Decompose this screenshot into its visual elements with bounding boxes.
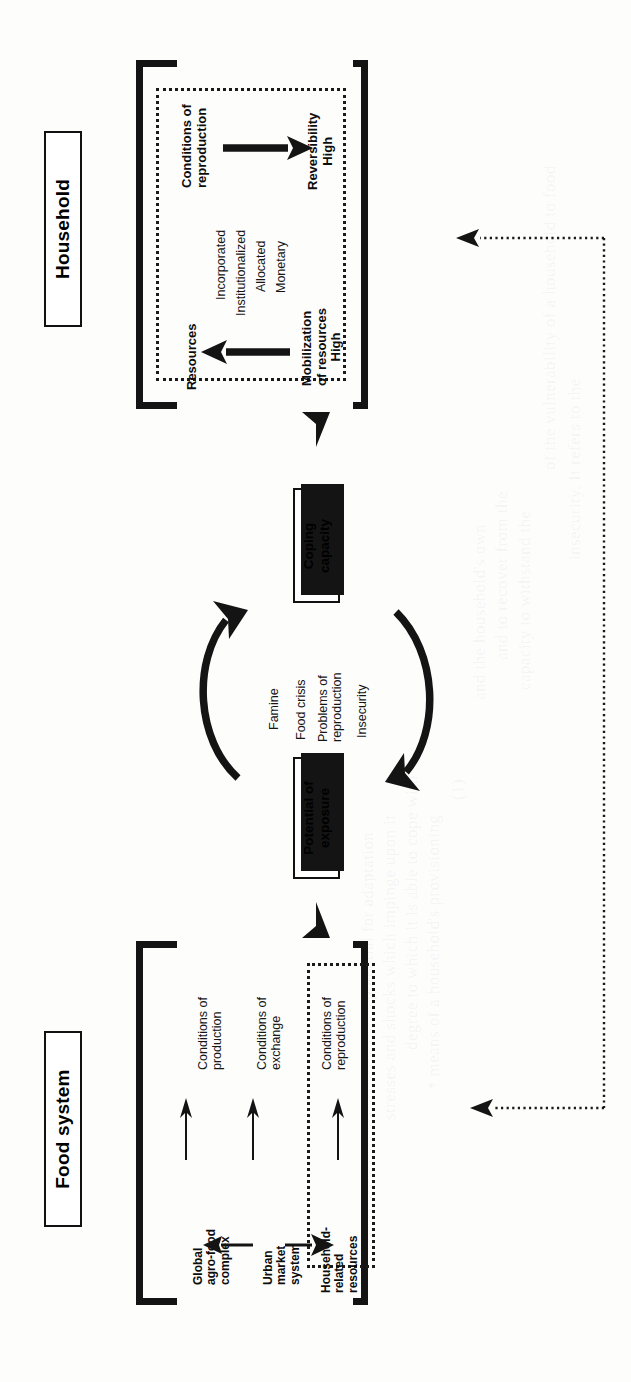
arrow-household-to-coping-capacity	[302, 412, 330, 447]
dotted-arrowhead-household	[456, 229, 479, 247]
food-system-title-label: Food system	[52, 1069, 74, 1188]
crisis-label-insecurity: Insecurity	[355, 685, 369, 739]
food-system-condition-exchange: Conditions of exchange	[255, 997, 283, 1070]
curved-arrow-coping-to-exposure	[385, 612, 430, 791]
bracket-arm-bottom	[136, 402, 177, 409]
ghost-text: and the household's own	[470, 524, 490, 700]
bracket-spine-close	[361, 60, 368, 409]
crisis-label-problems-of-reproduction: Problems of reproduction	[316, 673, 344, 743]
bracket-arm-top-close	[353, 941, 368, 948]
household-bracket-close	[353, 60, 368, 409]
potential-of-exposure-label: Potential of exposure	[301, 781, 333, 855]
ghost-text: and to recover from the	[492, 491, 512, 660]
household-resource-type: Institutionalized	[234, 230, 248, 316]
household-resources-label: Resources	[185, 324, 200, 390]
crisis-label-famine: Famine	[267, 688, 281, 730]
food-system-actor-urban-market-system: Urban market system	[262, 1244, 302, 1285]
household-title-plaque: Household	[44, 131, 82, 327]
bracket-arm-bottom	[136, 1298, 177, 1305]
household-reversibility-label: Reversibility High	[306, 113, 335, 190]
ghost-text: of the vulnerability of a household to f…	[540, 165, 560, 470]
potential-of-exposure-box[interactable]: Potential of exposure	[293, 757, 340, 879]
food-system-title-plaque: Food system	[44, 1031, 82, 1227]
arrow-food-system-to-potential-of-exposure	[302, 902, 330, 938]
bracket-arm-bottom-close	[353, 1298, 368, 1305]
dotted-feedback-loop	[456, 229, 604, 1117]
food-system-condition-reproduction: Conditions of reproduction	[320, 997, 348, 1070]
food-system-condition-production: Conditions of production	[196, 997, 224, 1070]
household-conditions-of-reproduction-label: Conditions of reproduction	[180, 104, 209, 188]
ghost-text: * means of a household's provisioning	[424, 815, 444, 1090]
ghost-text: insecurity. It refers to the	[565, 379, 585, 560]
ghost-text: degree to which it is able to cope with	[402, 776, 422, 1050]
ghost-text: stresses and shocks which impinge upon i…	[380, 815, 400, 1120]
bracket-spine	[136, 60, 143, 409]
bracket-arm-bottom-close	[353, 402, 368, 409]
crisis-label-food-crisis: Food crisis	[294, 680, 308, 740]
food-system-actor-global-agro-food-complex: Global agro-food complex	[192, 1229, 232, 1285]
household-title-label: Household	[52, 179, 74, 279]
coping-capacity-label: Coping capacity	[301, 518, 333, 572]
household-mobilization-label: Mobilization of resources High	[300, 308, 344, 386]
ghost-text: capacity to withstand the	[515, 511, 535, 690]
bracket-arm-top-close	[353, 60, 368, 67]
bracket-arm-top	[136, 60, 177, 67]
household-resource-type: Monetary	[274, 241, 288, 293]
dotted-arrowhead-food-system	[470, 1099, 493, 1117]
figure-page: of the vulnerability of a household to f…	[0, 0, 631, 1382]
bracket-spine	[136, 941, 143, 1305]
household-resource-type: Allocated	[254, 241, 268, 292]
bracket-arm-top	[136, 941, 177, 948]
curved-arrow-exposure-to-coping	[203, 601, 248, 778]
ghost-text: (1)	[448, 779, 468, 800]
coping-capacity-box[interactable]: Coping capacity	[293, 488, 340, 603]
food-system-actor-household-related-resources: Household- related resources	[320, 1227, 360, 1293]
household-resource-type: Incorporated	[214, 230, 228, 300]
